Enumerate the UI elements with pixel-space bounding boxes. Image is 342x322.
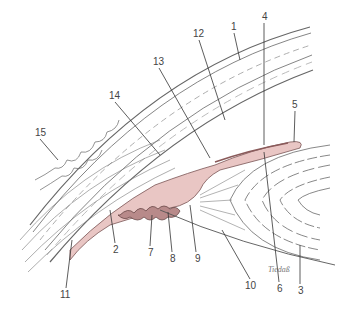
label-2: 2 — [113, 244, 119, 255]
label-1: 1 — [231, 21, 237, 32]
label-5: 5 — [292, 99, 298, 110]
label-11: 11 — [60, 289, 71, 300]
conjunctiva — [35, 120, 119, 190]
artist-signature: Tiedaß — [268, 265, 290, 274]
label-9: 9 — [195, 253, 201, 264]
label-15: 15 — [35, 127, 47, 138]
label-6: 6 — [277, 283, 283, 294]
label-12: 12 — [193, 28, 205, 39]
label-14: 14 — [109, 90, 121, 101]
label-10: 10 — [245, 280, 257, 291]
label-13: 13 — [153, 56, 165, 67]
label-7: 7 — [148, 247, 154, 258]
cornea — [30, 27, 313, 262]
label-4: 4 — [262, 11, 268, 22]
label-8: 8 — [170, 253, 176, 264]
eye-angle-diagram: 1 2 3 4 5 6 7 8 9 10 11 12 13 14 15 Tied… — [0, 0, 342, 322]
label-3: 3 — [298, 285, 304, 296]
diagram-canvas: 1 2 3 4 5 6 7 8 9 10 11 12 13 14 15 Tied… — [0, 0, 342, 322]
